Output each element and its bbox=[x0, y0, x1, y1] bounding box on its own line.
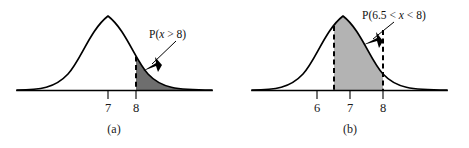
probability-label-relation: > bbox=[164, 28, 176, 40]
tick-label-8: 8 bbox=[133, 101, 139, 115]
panel-b: 6 7 8 P(6.5 < x < 8) (b) bbox=[234, 0, 469, 148]
probability-label-relation-right: < bbox=[404, 9, 416, 21]
tick-label-6: 6 bbox=[314, 101, 320, 115]
probability-label-prefix: P( bbox=[362, 9, 372, 22]
tick-label-7: 7 bbox=[105, 101, 111, 115]
panel-a: 7 8 P(x > 8) (a) bbox=[0, 0, 235, 148]
probability-label: P(x > 8) bbox=[149, 28, 186, 41]
panel-a-plot: 7 8 P(x > 8) (a) bbox=[0, 0, 235, 148]
annotation-leader-line bbox=[373, 22, 394, 39]
tick-label-7: 7 bbox=[347, 101, 353, 115]
annotation-arrow-head bbox=[143, 57, 162, 72]
probability-label: P(6.5 < x < 8) bbox=[362, 9, 426, 22]
probability-label-prefix: P( bbox=[149, 28, 159, 41]
shaded-area-between bbox=[252, 16, 447, 90]
panel-b-plot: 6 7 8 P(6.5 < x < 8) (b) bbox=[234, 0, 469, 148]
probability-label-suffix: ) bbox=[182, 28, 186, 41]
figure-container: 7 8 P(x > 8) (a) bbox=[0, 0, 469, 148]
panel-caption-b: (b) bbox=[343, 122, 357, 136]
probability-label-relation-left: < bbox=[387, 9, 399, 21]
panel-caption-a: (a) bbox=[107, 122, 120, 136]
tick-label-8: 8 bbox=[380, 101, 386, 115]
probability-label-suffix: ) bbox=[422, 9, 426, 22]
probability-label-lower: 6.5 bbox=[372, 9, 387, 21]
